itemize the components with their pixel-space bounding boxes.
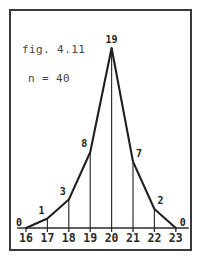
x-axis-tick-label: 22 bbox=[147, 231, 161, 245]
data-point-value-label: 2 bbox=[157, 195, 163, 206]
x-axis-tick-label: 21 bbox=[126, 231, 140, 245]
figure-container: fig. 4.11 n = 40 1617181920212223 013819… bbox=[0, 0, 202, 264]
data-point-value-label: 0 bbox=[180, 217, 186, 228]
x-axis-tick-label: 20 bbox=[105, 231, 119, 245]
annotation-group: fig. 4.11 n = 40 bbox=[22, 43, 85, 85]
data-point-value-label: 8 bbox=[81, 138, 87, 149]
frequency-polygon-chart: fig. 4.11 n = 40 1617181920212223 013819… bbox=[0, 0, 202, 264]
data-point-value-label: 19 bbox=[106, 34, 118, 45]
data-point-value-label: 1 bbox=[38, 205, 44, 216]
tick-label-group: 1617181920212223 bbox=[19, 231, 183, 245]
data-point-value-label: 0 bbox=[16, 217, 22, 228]
value-label-group: 013819720 bbox=[16, 34, 186, 228]
x-axis-tick-label: 19 bbox=[83, 231, 97, 245]
data-point-value-label: 7 bbox=[136, 148, 142, 159]
x-axis-tick-label: 17 bbox=[40, 231, 54, 245]
x-axis-tick-label: 23 bbox=[169, 231, 183, 245]
x-axis-tick-label: 16 bbox=[19, 231, 33, 245]
sample-size-label: n = 40 bbox=[28, 72, 70, 85]
figure-caption: fig. 4.11 bbox=[22, 43, 85, 56]
data-point-value-label: 3 bbox=[60, 186, 66, 197]
x-axis-tick-label: 18 bbox=[62, 231, 76, 245]
